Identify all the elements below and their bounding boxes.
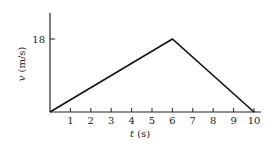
velocity-series-line — [50, 39, 254, 112]
x-tick-label-9: 9 — [230, 115, 236, 126]
x-tick-label-10: 10 — [248, 115, 261, 126]
x-tick-label-7: 7 — [190, 115, 196, 126]
x-tick-label-4: 4 — [128, 115, 134, 126]
x-tick-label-3: 3 — [108, 115, 114, 126]
x-axis-title: t (s) — [130, 128, 150, 139]
x-tick-label-6: 6 — [169, 115, 175, 126]
x-tick-label-5: 5 — [149, 115, 155, 126]
x-axis-unit: (s) — [134, 128, 150, 139]
y-axis-unit: (m/s) — [16, 47, 27, 76]
x-tick-label-2: 2 — [88, 115, 94, 126]
y-axis-title: v (m/s) — [16, 47, 27, 82]
y-tick-label-18: 18 — [32, 34, 45, 45]
x-tick-label-8: 8 — [210, 115, 216, 126]
velocity-time-chart: 18 1 2 3 4 5 6 7 8 9 10 t (s) v (m/s) — [0, 0, 276, 147]
x-tick-label-1: 1 — [67, 115, 73, 126]
